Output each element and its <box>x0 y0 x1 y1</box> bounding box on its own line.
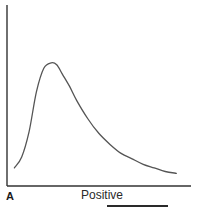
underline-rule <box>107 205 168 207</box>
panel-label: A <box>6 190 14 202</box>
distribution-curve <box>14 63 176 174</box>
chart-plot <box>0 0 198 209</box>
x-axis-label: Positive <box>81 188 123 202</box>
